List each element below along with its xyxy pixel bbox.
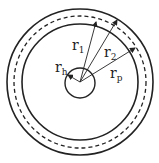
hub-circle [65,68,95,98]
label-rh: rh [55,60,68,77]
label-rp: rp [110,66,122,83]
label-r1: r1 [72,38,84,55]
radius-rh-arrow [68,75,80,82]
label-r2: r2 [104,45,116,62]
concentric-circles-diagram [0,0,159,163]
